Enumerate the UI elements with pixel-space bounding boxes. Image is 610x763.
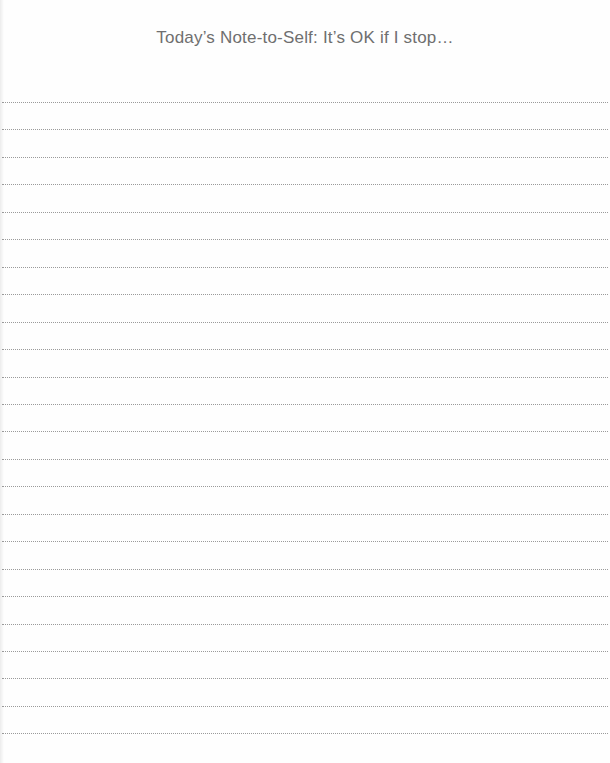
ruled-lines-area[interactable] bbox=[0, 0, 610, 763]
ruled-line bbox=[2, 129, 608, 130]
ruled-line bbox=[2, 706, 608, 707]
ruled-line bbox=[2, 678, 608, 679]
ruled-line bbox=[2, 569, 608, 570]
ruled-line bbox=[2, 459, 608, 460]
ruled-line bbox=[2, 651, 608, 652]
ruled-line bbox=[2, 404, 608, 405]
ruled-line bbox=[2, 239, 608, 240]
ruled-line bbox=[2, 294, 608, 295]
ruled-line bbox=[2, 157, 608, 158]
ruled-line bbox=[2, 431, 608, 432]
ruled-line bbox=[2, 486, 608, 487]
ruled-line bbox=[2, 624, 608, 625]
note-page: Today’s Note-to-Self: It’s OK if I stop… bbox=[0, 0, 610, 763]
ruled-line bbox=[2, 349, 608, 350]
ruled-line bbox=[2, 541, 608, 542]
ruled-line bbox=[2, 322, 608, 323]
ruled-line bbox=[2, 596, 608, 597]
ruled-line bbox=[2, 184, 608, 185]
ruled-line bbox=[2, 514, 608, 515]
ruled-line bbox=[2, 733, 608, 734]
ruled-line bbox=[2, 102, 608, 103]
ruled-line bbox=[2, 212, 608, 213]
ruled-line bbox=[2, 377, 608, 378]
ruled-line bbox=[2, 267, 608, 268]
